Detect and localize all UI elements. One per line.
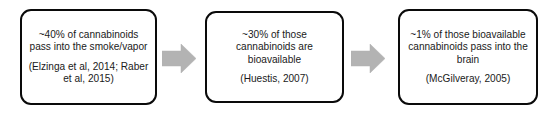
- arrow-shape: [351, 44, 385, 73]
- flow-step-statement-1: ~40% of cannabinoids pass into the smoke…: [27, 29, 150, 54]
- flow-step-box-1: ~40% of cannabinoids pass into the smoke…: [20, 9, 157, 105]
- flow-step-box-3: ~1% of those bioavailable cannabinoids p…: [398, 9, 538, 105]
- flow-diagram: ~40% of cannabinoids pass into the smoke…: [0, 0, 550, 115]
- flow-step-statement-2: ~30% of those cannabinoids are bioavaila…: [212, 29, 337, 66]
- flow-step-box-2: ~30% of those cannabinoids are bioavaila…: [205, 11, 344, 103]
- flow-step-citation-1: (Elzinga et al, 2014; Raber et al, 2015): [27, 61, 150, 86]
- right-arrow-icon-1: [162, 44, 196, 73]
- arrow-shape: [162, 44, 196, 73]
- flow-step-citation-2: (Huestis, 2007): [240, 73, 308, 85]
- right-arrow-icon-2: [351, 44, 385, 73]
- flow-step-citation-3: (McGilveray, 2005): [426, 73, 511, 85]
- flow-step-statement-3: ~1% of those bioavailable cannabinoids p…: [405, 29, 531, 66]
